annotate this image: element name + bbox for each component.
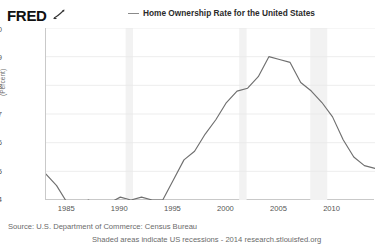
y-tick-label: 64 — [0, 195, 2, 204]
y-tick-label: 67 — [0, 110, 2, 119]
legend-series-label: Home Ownership Rate for the United State… — [143, 8, 315, 18]
y-tick-label: 65 — [0, 167, 2, 176]
x-tick-label: 2005 — [259, 204, 299, 213]
chart-plot-area — [45, 28, 374, 200]
y-tick-label: 70 — [0, 25, 2, 34]
x-tick-label: 1990 — [99, 204, 139, 213]
chart-legend: Home Ownership Rate for the United State… — [128, 8, 315, 18]
source-text: Source: U.S. Department of Commerce: Cen… — [8, 222, 197, 231]
y-tick-label: 69 — [0, 53, 2, 62]
x-tick-label: 1995 — [152, 204, 192, 213]
legend-line-marker-icon — [128, 13, 139, 14]
swoosh-icon — [53, 9, 67, 20]
chart-canvas — [46, 28, 375, 200]
recession-note-text: Shaded areas indicate US recessions - 20… — [92, 235, 321, 244]
chart-header: FRED Home Ownership Rate for the United … — [0, 0, 381, 28]
x-tick-label: 2010 — [312, 204, 352, 213]
fred-logo: FRED — [7, 7, 47, 24]
y-axis-title: (Percent) — [0, 69, 6, 96]
x-tick-label: 1985 — [46, 204, 86, 213]
y-tick-label: 66 — [0, 138, 2, 147]
x-tick-label: 2000 — [205, 204, 245, 213]
